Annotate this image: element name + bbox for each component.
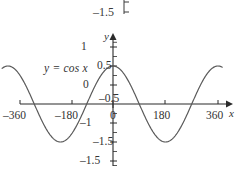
stray-top-tick-label: –1.5 [93,6,114,18]
y-tick-label--1.5b: –1.5 [80,155,100,167]
y-axis-label: y [104,31,109,42]
y-tick-label-1: 0.5 [97,60,111,72]
x-axis [20,100,233,108]
y-tick-label-0.5: 0 [83,79,89,91]
x-tick-label--360: –360 [3,110,26,122]
y-tick-label--1: –1.5 [93,136,113,148]
y-tick-label-0: –0.5 [99,93,119,105]
x-tick-label-180: 180 [153,110,170,122]
graph-canvas [0,0,239,172]
y-tick-label-1.5: 1 [81,41,87,53]
cosine-graph-figure: –1.5 [0,0,239,172]
x-tick-label--180: –180 [55,110,78,122]
x-axis-label: x [229,108,234,119]
stray-axis-fragment [124,0,129,14]
equation-annotation: y = cos x [44,63,88,75]
x-tick-label-360: 360 [206,110,223,122]
y-tick-label--0.5: –1 [80,117,92,129]
x-tick-label-0: 0 [110,110,116,122]
